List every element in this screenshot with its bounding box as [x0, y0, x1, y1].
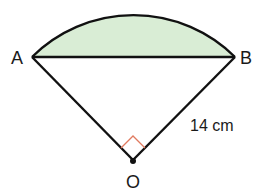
shaded-segment	[32, 15, 235, 57]
sector-diagram: A B O 14 cm	[0, 0, 268, 191]
radius-length-label: 14 cm	[190, 117, 234, 134]
label-o: O	[126, 172, 140, 191]
radius-oa	[32, 57, 133, 160]
label-b: B	[240, 48, 252, 68]
right-angle-marker	[121, 136, 145, 148]
label-a: A	[11, 48, 23, 68]
center-point-o	[130, 158, 136, 164]
radius-ob	[133, 57, 235, 160]
